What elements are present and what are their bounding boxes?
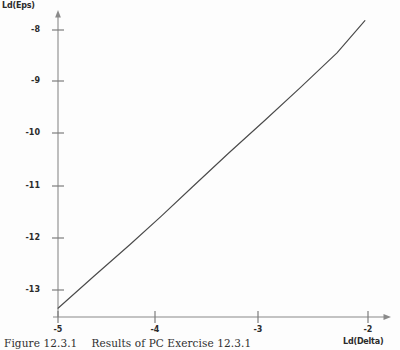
x-axis-title: Ld(Delta) xyxy=(343,337,383,346)
x-tick-label: -3 xyxy=(246,325,270,334)
y-tick-label: -13 xyxy=(14,285,40,294)
y-axis-arrow-icon xyxy=(55,10,61,18)
y-tick-label: -12 xyxy=(14,233,40,242)
x-tick-label: -2 xyxy=(356,325,380,334)
y-tick-label: -10 xyxy=(14,128,40,137)
chart-plot-area xyxy=(0,0,400,350)
figure-caption-number: Figure 12.3.1 xyxy=(4,337,77,349)
x-axis-arrow-icon xyxy=(384,314,392,320)
figure-caption: Figure 12.3.1Results of PC Exercise 12.3… xyxy=(4,337,304,349)
y-tick-label: -9 xyxy=(14,76,40,85)
y-tick-label: -11 xyxy=(14,181,40,190)
x-tick-label: -4 xyxy=(143,325,167,334)
y-tick-label: -8 xyxy=(14,25,40,34)
data-series-line xyxy=(58,21,365,309)
y-axis-title: Ld(Eps) xyxy=(2,1,35,10)
figure-caption-text: Results of PC Exercise 12.3.1 xyxy=(91,337,251,349)
x-tick-label: -5 xyxy=(46,325,70,334)
figure-container: Ld(Eps) Ld(Delta) -8 -9 -10 -11 -12 -13 … xyxy=(0,0,400,350)
